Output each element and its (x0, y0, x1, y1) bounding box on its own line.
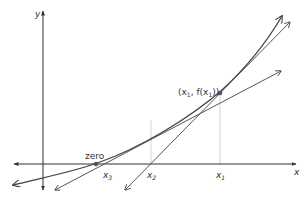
tangent-line-x1 (125, 22, 290, 190)
zero-label: zero (85, 151, 105, 161)
function-curve (13, 16, 282, 185)
tangent-line-x2 (55, 71, 281, 190)
x2-label: x2 (146, 170, 156, 181)
x1-label: x1 (215, 170, 225, 181)
point-label: (x1, f(x1)) (178, 87, 219, 98)
zero-point (94, 162, 99, 167)
newtons-method-diagram: y x (x1, f(x1)) zero x3 x2 x1 (0, 0, 304, 199)
x3-label: x3 (102, 170, 112, 181)
y-axis-label: y (34, 9, 41, 19)
x-axis-label: x (293, 167, 300, 177)
